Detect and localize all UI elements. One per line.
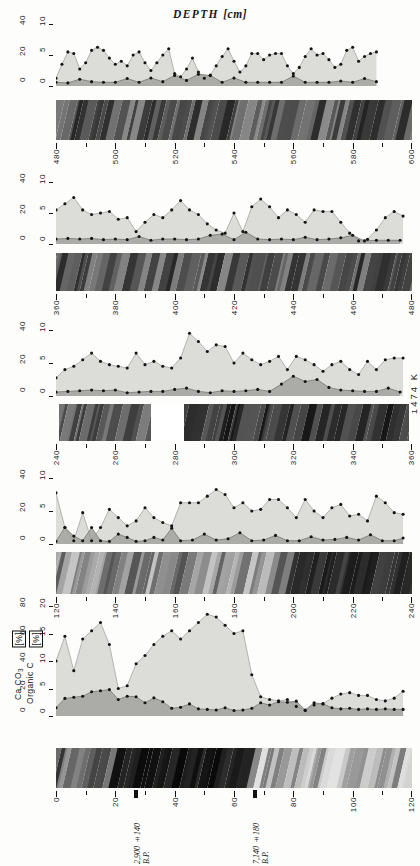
y-axis: 020400510	[0, 330, 56, 396]
x-tick-minor	[204, 294, 205, 298]
y-tick-dash	[49, 182, 53, 183]
x-tick-minor	[382, 791, 383, 795]
x-tick-minor	[145, 791, 146, 795]
y-tick-dash	[49, 689, 53, 690]
radiocarbon-date-label: 7,140 ±180B.P.	[252, 823, 270, 864]
x-axis: 240260280300320340360	[56, 444, 412, 470]
y-tick-dash	[49, 606, 53, 607]
y-tick-dash	[49, 86, 53, 87]
y-tick-organic: 5	[38, 503, 47, 508]
radiocarbon-date-marker	[253, 790, 257, 798]
x-tick-label: 0	[52, 797, 61, 802]
x-tick-label: 520	[171, 149, 180, 164]
page-title-unit: [cm]	[223, 8, 247, 20]
y-tick-dash	[49, 55, 53, 56]
y-tick-caco3: 20	[18, 46, 27, 56]
y-tick-caco3: 0	[18, 235, 27, 240]
x-tick-minor	[86, 444, 87, 448]
y-tick-dash	[49, 544, 53, 545]
y-tick-caco3: 20	[18, 204, 27, 214]
y-tick-organic: 10	[38, 322, 47, 332]
x-tick-label: 440	[289, 300, 298, 315]
curve-plot	[56, 24, 412, 86]
x-tick-label: 480	[407, 300, 416, 315]
plot-canvas	[56, 182, 412, 244]
x-tick-minor	[382, 597, 383, 601]
core-photograph	[56, 748, 412, 788]
y-axis: 020400510	[0, 24, 56, 86]
core-photo-segment	[59, 404, 151, 441]
x-tick-label: 100	[349, 797, 358, 812]
axis-unit-organic: [%]	[31, 630, 41, 647]
x-tick-minor	[264, 444, 265, 448]
x-tick-minor	[86, 294, 87, 298]
x-tick-minor	[86, 597, 87, 601]
radiocarbon-date-label: 2,900 ±140B.P.	[133, 823, 151, 864]
x-tick-label: 260	[111, 450, 120, 465]
x-tick-minor	[382, 294, 383, 298]
y-tick-organic: 0	[38, 388, 47, 393]
core-photograph	[56, 404, 412, 441]
y-tick-dash	[49, 24, 53, 25]
plot-canvas	[56, 330, 412, 396]
y-tick-organic: 10	[38, 653, 47, 663]
axis-unit-caco3: [%]	[14, 630, 24, 647]
curve-plot	[56, 478, 412, 544]
y-tick-dash	[49, 661, 53, 662]
radiocarbon-date-marker	[134, 790, 138, 798]
x-tick-label: 560	[289, 149, 298, 164]
x-tick-label: 80	[289, 797, 298, 807]
y-tick-caco3: 0	[18, 387, 27, 392]
x-tick-label: 60	[230, 797, 239, 807]
plot-canvas	[56, 606, 412, 716]
core-photograph	[56, 100, 412, 140]
x-axis: 0204060801001202,900 ±140B.P.7,140 ±180B…	[56, 791, 412, 817]
x-tick-label: 600	[407, 149, 416, 164]
core-photo-segment	[56, 253, 412, 291]
x-tick-label: 500	[111, 149, 120, 164]
date-bp: B.P.	[261, 851, 270, 864]
y-tick-organic: 10	[38, 470, 47, 480]
axis-label-organic: Organic C	[25, 662, 35, 704]
y-tick-organic: 10	[38, 174, 47, 184]
y-tick-caco3: 0	[18, 535, 27, 540]
date-bp: B.P.	[142, 851, 151, 864]
x-tick-minor	[323, 597, 324, 601]
curve-plot	[56, 330, 412, 396]
x-tick-minor	[204, 597, 205, 601]
y-tick-dash	[49, 244, 53, 245]
core-photo-segment	[56, 100, 412, 140]
y-tick-organic: 10	[38, 16, 47, 26]
y-tick-dash	[49, 511, 53, 512]
x-tick-label: 120	[407, 797, 416, 812]
x-tick-label: 380	[111, 300, 120, 315]
core-photograph	[56, 552, 412, 594]
y-tick-dash	[49, 213, 53, 214]
axis-label-caco3: Ca CO3	[13, 668, 24, 700]
core-photo-segment	[184, 404, 409, 441]
y-tick-dash	[49, 330, 53, 331]
y-axis: 020400510	[0, 182, 56, 244]
y-tick-organic: 5	[38, 681, 47, 686]
x-tick-label: 300	[230, 450, 239, 465]
core-photo-segment	[56, 748, 412, 788]
y-tick-organic: 20	[38, 598, 47, 608]
y-tick-caco3: 0	[18, 77, 27, 82]
y-tick-dash	[49, 634, 53, 635]
y-tick-dash	[49, 716, 53, 717]
x-tick-minor	[264, 791, 265, 795]
y-axis: 020400510	[0, 478, 56, 544]
x-tick-label: 40	[171, 797, 180, 807]
y-tick-caco3: 0	[18, 707, 27, 712]
x-axis: 360380400420440460480	[56, 294, 412, 320]
y-tick-organic: 5	[38, 355, 47, 360]
plot-canvas	[56, 478, 412, 544]
y-tick-caco3: 80	[18, 597, 27, 607]
x-tick-minor	[145, 294, 146, 298]
x-tick-label: 360	[407, 450, 416, 465]
y-tick-caco3: 20	[18, 354, 27, 364]
x-tick-minor	[264, 143, 265, 147]
core-photo-segment	[56, 552, 412, 594]
x-tick-minor	[264, 294, 265, 298]
x-tick-label: 460	[349, 300, 358, 315]
